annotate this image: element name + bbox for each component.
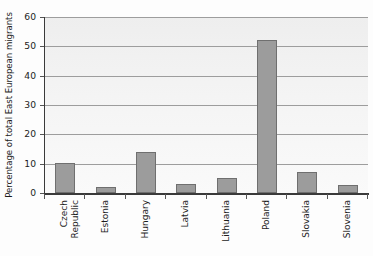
x-tick-label: Lithuania bbox=[221, 200, 232, 254]
y-tick-mark bbox=[40, 134, 44, 135]
x-tick-mark bbox=[84, 194, 85, 199]
gridline bbox=[45, 105, 368, 106]
x-tick-label-container: Slovakia bbox=[289, 200, 323, 256]
y-tick-mark bbox=[40, 164, 44, 165]
x-tick-label: Estonia bbox=[100, 200, 111, 254]
x-tick-label-line: Czech bbox=[59, 200, 69, 227]
gridline bbox=[45, 17, 368, 18]
x-tick-label-line: Lithuania bbox=[221, 200, 231, 242]
y-tick-mark bbox=[40, 76, 44, 77]
x-tick-label: Poland bbox=[261, 200, 272, 254]
x-tick-mark bbox=[206, 194, 207, 199]
bar bbox=[297, 172, 317, 193]
x-tick-label: CzechRepublic bbox=[59, 200, 80, 254]
y-tick-label: 10 bbox=[14, 159, 36, 168]
x-tick-label-line: Estonia bbox=[100, 200, 110, 233]
gridline bbox=[45, 46, 368, 47]
x-tick-label: Slovenia bbox=[342, 200, 353, 254]
x-tick-label-container: Hungary bbox=[128, 200, 162, 256]
x-axis-line bbox=[44, 193, 369, 195]
x-tick-label-line: Hungary bbox=[140, 200, 150, 238]
x-tick-label-container: Latvia bbox=[168, 200, 202, 256]
x-tick-label-line: Republic bbox=[70, 200, 81, 254]
x-tick-label-line: Slovenia bbox=[342, 200, 352, 238]
x-tick-mark bbox=[44, 194, 45, 199]
x-tick-label-line: Slovakia bbox=[301, 200, 311, 238]
bar-chart: Percentage of total East European migran… bbox=[0, 0, 373, 256]
plot-area bbox=[44, 17, 368, 193]
x-tick-mark bbox=[246, 194, 247, 199]
y-tick-label: 50 bbox=[14, 41, 36, 50]
x-tick-mark bbox=[165, 194, 166, 199]
bar bbox=[136, 152, 156, 193]
x-tick-mark bbox=[327, 194, 328, 199]
gridline bbox=[45, 76, 368, 77]
bar bbox=[176, 184, 196, 193]
y-tick-mark bbox=[40, 17, 44, 18]
x-tick-label-line: Poland bbox=[261, 200, 271, 230]
x-tick-label-container: Lithuania bbox=[209, 200, 243, 256]
x-tick-mark bbox=[367, 194, 368, 199]
bar bbox=[55, 163, 75, 193]
x-tick-label: Latvia bbox=[180, 200, 191, 254]
x-tick-mark bbox=[286, 194, 287, 199]
bar bbox=[217, 178, 237, 193]
gridline bbox=[45, 164, 368, 165]
bar bbox=[257, 40, 277, 193]
x-tick-label: Slovakia bbox=[301, 200, 312, 254]
x-tick-label-container: CzechRepublic bbox=[47, 200, 81, 256]
y-tick-label: 20 bbox=[14, 129, 36, 138]
y-tick-label: 30 bbox=[14, 100, 36, 109]
y-tick-mark bbox=[40, 105, 44, 106]
x-tick-label: Hungary bbox=[140, 200, 151, 254]
y-tick-label: 40 bbox=[14, 71, 36, 80]
x-tick-label-container: Estonia bbox=[88, 200, 122, 256]
y-tick-mark bbox=[40, 46, 44, 47]
x-tick-mark bbox=[125, 194, 126, 199]
y-tick-label: 0 bbox=[14, 188, 36, 197]
x-tick-label-line: Latvia bbox=[180, 200, 190, 227]
x-tick-label-container: Slovenia bbox=[330, 200, 364, 256]
y-tick-label: 60 bbox=[14, 12, 36, 21]
gridline bbox=[45, 134, 368, 135]
x-tick-label-container: Poland bbox=[249, 200, 283, 256]
bar bbox=[338, 185, 358, 193]
